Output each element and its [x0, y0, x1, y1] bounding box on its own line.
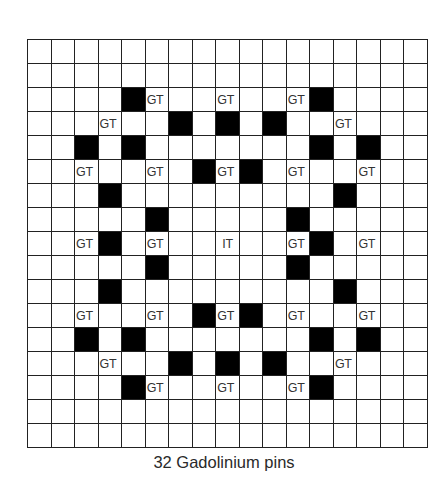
- fuel-pin-cell: [75, 376, 99, 400]
- fuel-pin-cell: [169, 256, 193, 280]
- fuel-pin-cell: [216, 184, 240, 208]
- fuel-pin-cell: [193, 328, 217, 352]
- fuel-pin-cell: [75, 64, 99, 88]
- fuel-pin-cell: [75, 400, 99, 424]
- guide-tube-label: GT: [288, 165, 305, 178]
- fuel-pin-cell: [169, 400, 193, 424]
- gadolinium-pin-cell: [146, 256, 170, 280]
- gadolinium-pin-cell: [122, 88, 146, 112]
- gadolinium-pin-cell: [99, 232, 123, 256]
- fuel-pin-cell: [193, 40, 217, 64]
- gadolinium-pin-cell: [357, 328, 381, 352]
- fuel-pin-cell: [263, 232, 287, 256]
- fuel-pin-cell: [381, 184, 405, 208]
- fuel-pin-cell: [216, 280, 240, 304]
- fuel-pin-cell: [381, 232, 405, 256]
- fuel-pin-cell: [404, 352, 428, 376]
- fuel-pin-cell: [287, 112, 311, 136]
- fuel-pin-cell: [28, 184, 52, 208]
- fuel-pin-cell: [287, 280, 311, 304]
- fuel-pin-cell: [28, 400, 52, 424]
- fuel-pin-cell: [169, 280, 193, 304]
- fuel-pin-cell: [52, 352, 76, 376]
- guide-tube-label: GT: [288, 381, 305, 394]
- fuel-pin-cell: [263, 136, 287, 160]
- fuel-pin-cell: [99, 256, 123, 280]
- fuel-pin-cell: [263, 328, 287, 352]
- guide-tube-cell: GT: [287, 232, 311, 256]
- fuel-pin-cell: [122, 280, 146, 304]
- fuel-pin-cell: [28, 256, 52, 280]
- fuel-pin-cell: [334, 136, 358, 160]
- gadolinium-pin-cell: [310, 376, 334, 400]
- fuel-pin-cell: [334, 304, 358, 328]
- fuel-pin-cell: [310, 208, 334, 232]
- guide-tube-cell: GT: [287, 160, 311, 184]
- guide-tube-cell: GT: [357, 304, 381, 328]
- guide-tube-label: GT: [217, 93, 234, 106]
- fuel-pin-cell: [381, 160, 405, 184]
- guide-tube-cell: GT: [216, 304, 240, 328]
- fuel-pin-cell: [263, 160, 287, 184]
- fuel-pin-cell: [75, 352, 99, 376]
- fuel-pin-cell: [263, 208, 287, 232]
- fuel-pin-cell: [122, 208, 146, 232]
- fuel-pin-cell: [404, 280, 428, 304]
- fuel-pin-cell: [146, 400, 170, 424]
- fuel-pin-cell: [28, 280, 52, 304]
- fuel-pin-cell: [287, 136, 311, 160]
- gadolinium-pin-cell: [216, 112, 240, 136]
- fuel-pin-cell: [381, 424, 405, 448]
- guide-tube-label: GT: [76, 237, 93, 250]
- fuel-pin-cell: [28, 304, 52, 328]
- guide-tube-label: GT: [217, 381, 234, 394]
- fuel-pin-cell: [287, 424, 311, 448]
- gadolinium-pin-cell: [146, 208, 170, 232]
- guide-tube-cell: GT: [99, 112, 123, 136]
- guide-tube-label: GT: [288, 237, 305, 250]
- fuel-pin-cell: [75, 256, 99, 280]
- guide-tube-label: GT: [147, 309, 164, 322]
- gadolinium-pin-cell: [122, 136, 146, 160]
- fuel-pin-cell: [52, 64, 76, 88]
- guide-tube-cell: GT: [216, 376, 240, 400]
- gadolinium-pin-cell: [193, 160, 217, 184]
- fuel-pin-cell: [357, 400, 381, 424]
- fuel-pin-cell: [99, 136, 123, 160]
- fuel-pin-cell: [357, 184, 381, 208]
- gadolinium-pin-cell: [334, 184, 358, 208]
- fuel-pin-cell: [28, 232, 52, 256]
- fuel-pin-cell: [122, 112, 146, 136]
- guide-tube-label: GT: [100, 357, 117, 370]
- fuel-pin-cell: [52, 208, 76, 232]
- fuel-pin-cell: [263, 40, 287, 64]
- fuel-pin-cell: [99, 424, 123, 448]
- fuel-pin-cell: [193, 352, 217, 376]
- fuel-pin-cell: [52, 304, 76, 328]
- instrument-tube-label: IT: [222, 237, 233, 250]
- fuel-pin-cell: [216, 424, 240, 448]
- fuel-pin-cell: [216, 328, 240, 352]
- gadolinium-pin-cell: [193, 304, 217, 328]
- fuel-pin-cell: [52, 280, 76, 304]
- fuel-pin-cell: [334, 64, 358, 88]
- fuel-pin-cell: [334, 328, 358, 352]
- fuel-pin-cell: [404, 40, 428, 64]
- fuel-pin-cell: [169, 88, 193, 112]
- fuel-pin-cell: [193, 208, 217, 232]
- fuel-pin-cell: [381, 64, 405, 88]
- gadolinium-pin-cell: [169, 352, 193, 376]
- fuel-pin-cell: [381, 328, 405, 352]
- fuel-pin-cell: [52, 184, 76, 208]
- fuel-pin-cell: [99, 208, 123, 232]
- guide-tube-cell: GT: [334, 112, 358, 136]
- gadolinium-pin-cell: [334, 280, 358, 304]
- fuel-pin-cell: [404, 376, 428, 400]
- guide-tube-cell: GT: [287, 304, 311, 328]
- fuel-pin-cell: [169, 64, 193, 88]
- guide-tube-label: GT: [358, 237, 375, 250]
- fuel-pin-cell: [240, 376, 264, 400]
- gadolinium-pin-cell: [169, 112, 193, 136]
- fuel-pin-cell: [216, 136, 240, 160]
- fuel-pin-cell: [75, 112, 99, 136]
